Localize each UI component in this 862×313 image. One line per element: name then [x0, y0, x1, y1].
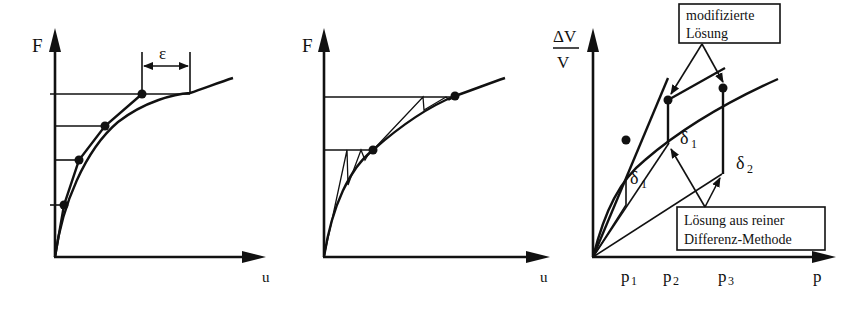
callout-difference-line1: Lösung aus reiner: [684, 213, 785, 228]
svg-text:δ: δ: [736, 153, 744, 173]
x-axis-arrow-icon: [812, 251, 836, 263]
svg-text:δ: δ: [680, 128, 688, 148]
y-axis-arrow-icon: [318, 28, 330, 52]
x-axis-label: p: [813, 267, 822, 286]
callout-arrow: [671, 44, 702, 94]
callout-arrow: [705, 178, 720, 207]
iteration-path-1: [324, 150, 371, 257]
y-axis-label-numerator: ΔV: [553, 27, 577, 46]
panel-right: ΔV V p p 1 p 2 p 3: [553, 4, 836, 288]
modified-point-3: [719, 84, 728, 93]
x-tick-p2: p 2: [663, 267, 679, 288]
modified-point-2: [664, 96, 673, 105]
x-axis-label: u: [262, 269, 270, 285]
iteration-path-2: [373, 97, 455, 150]
svg-text:p: p: [621, 267, 630, 286]
panel-middle: F u: [302, 28, 550, 285]
svg-text:p: p: [718, 267, 727, 286]
svg-text:3: 3: [728, 274, 734, 288]
step-point: [60, 201, 69, 210]
true-curve: [55, 78, 233, 257]
x-axis-label: u: [540, 269, 548, 285]
x-tick-p1: p 1: [621, 267, 637, 288]
callout-modified-line2: Lösung: [686, 26, 728, 41]
modified-point-1: [622, 136, 631, 145]
callout-modified-line1: modifizierte: [686, 8, 754, 23]
y-axis-arrow-icon: [587, 28, 599, 52]
x-axis-arrow-icon: [242, 251, 266, 263]
svg-text:2: 2: [747, 162, 753, 176]
y-axis-label: F: [32, 35, 43, 56]
svg-text:1: 1: [641, 177, 647, 191]
svg-text:δ: δ: [630, 168, 638, 188]
panel-left: F u ε: [32, 28, 270, 285]
step-point: [75, 156, 84, 165]
converged-point: [451, 92, 460, 101]
delta-label-1b: δ 1: [680, 128, 697, 151]
x-axis-arrow-icon: [526, 251, 550, 263]
incremental-path: [55, 94, 142, 257]
difference-path-1b: [593, 143, 669, 257]
svg-text:p: p: [663, 267, 672, 286]
delta-label-2: δ 2: [736, 153, 753, 176]
y-axis-arrow-icon: [49, 28, 61, 52]
epsilon-label: ε: [159, 44, 166, 63]
svg-text:1: 1: [631, 274, 637, 288]
converged-point: [369, 146, 378, 155]
y-axis-label: F: [302, 35, 313, 56]
callout-difference-line2: Differenz-Methode: [684, 232, 792, 247]
y-axis-label-denominator: V: [557, 53, 570, 72]
true-curve: [324, 78, 505, 257]
x-tick-p3: p 3: [718, 267, 734, 288]
callout-arrow: [671, 149, 705, 207]
step-point: [101, 122, 110, 131]
svg-text:1: 1: [691, 137, 697, 151]
figure-canvas: F u ε F u: [0, 0, 862, 313]
svg-text:2: 2: [673, 274, 679, 288]
